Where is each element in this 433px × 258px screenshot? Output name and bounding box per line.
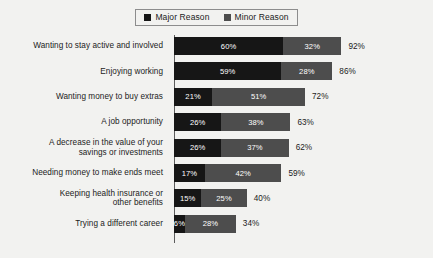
- chart-legend: Major Reason Minor Reason: [0, 9, 433, 26]
- bar-segment-minor-value: 28%: [203, 219, 219, 228]
- bar-segment-minor-value: 25%: [216, 194, 232, 203]
- major-reason-swatch-icon: [144, 14, 151, 21]
- bar-segment-major-value: 6%: [174, 219, 185, 228]
- stacked-bar: 59%28%: [174, 62, 332, 80]
- legend-entry-major-reason: Major Reason: [144, 12, 209, 22]
- bar-segment-major-value: 21%: [185, 92, 201, 101]
- bar-segment-major-value: 59%: [220, 67, 236, 76]
- bar-segment-minor-reason: 25%: [201, 189, 247, 207]
- bar-segment-major-reason: 6%: [174, 215, 185, 233]
- stacked-bar: 21%51%: [174, 88, 305, 106]
- bar-total-label: 40%: [254, 194, 270, 203]
- plot-area: Wanting to stay active and involved60%32…: [0, 33, 433, 247]
- bar-segment-major-reason: 59%: [174, 62, 281, 80]
- bar-row: A decrease in the value of yoursavings o…: [0, 139, 433, 157]
- legend-label-minor-reason: Minor Reason: [235, 12, 289, 22]
- bar-row: Trying a different career6%28%34%: [0, 215, 433, 233]
- bar-total-label: 59%: [288, 169, 304, 178]
- legend-entry-minor-reason: Minor Reason: [224, 12, 289, 22]
- bar-row: Wanting money to buy extras21%51%72%: [0, 88, 433, 106]
- bar-segment-minor-reason: 51%: [212, 88, 305, 106]
- legend-label-major-reason: Major Reason: [155, 12, 209, 22]
- bar-segment-major-reason: 17%: [174, 164, 205, 182]
- bar-segment-minor-value: 38%: [248, 118, 264, 127]
- minor-reason-swatch-icon: [224, 14, 231, 21]
- stacked-bar: 26%37%: [174, 139, 289, 157]
- bar-segment-minor-reason: 32%: [283, 37, 341, 55]
- bar-segment-minor-value: 37%: [247, 143, 263, 152]
- bar-segment-major-value: 15%: [180, 194, 196, 203]
- bar-segment-minor-reason: 37%: [221, 139, 288, 157]
- bar-segment-minor-reason: 28%: [185, 215, 236, 233]
- bar-segment-minor-value: 51%: [251, 92, 267, 101]
- bar-row-label: Wanting to stay active and involved: [0, 41, 170, 50]
- bar-segment-major-value: 26%: [190, 118, 206, 127]
- bar-row: Enjoying working59%28%86%: [0, 62, 433, 80]
- bar-total-label: 63%: [297, 118, 313, 127]
- stacked-bar: 15%25%: [174, 189, 247, 207]
- stacked-bar: 60%32%: [174, 37, 341, 55]
- stacked-bar: 6%28%: [174, 215, 236, 233]
- bar-row-label: Keeping health insurance orother benefit…: [0, 189, 170, 208]
- bar-total-label: 72%: [312, 92, 328, 101]
- bar-segment-major-value: 26%: [190, 143, 206, 152]
- bar-segment-minor-reason: 28%: [281, 62, 332, 80]
- bar-row: A job opportunity26%38%63%: [0, 113, 433, 131]
- bar-segment-minor-value: 42%: [235, 169, 251, 178]
- legend-box: Major Reason Minor Reason: [135, 9, 297, 26]
- bar-total-label: 86%: [339, 67, 355, 76]
- bar-row-label: Needing money to make ends meet: [0, 168, 170, 177]
- bar-segment-major-value: 17%: [182, 169, 198, 178]
- bar-row-label: Trying a different career: [0, 219, 170, 228]
- bar-segment-minor-value: 32%: [305, 42, 321, 51]
- bar-segment-major-value: 60%: [221, 42, 237, 51]
- bar-segment-major-reason: 21%: [174, 88, 212, 106]
- bar-total-label: 92%: [348, 42, 364, 51]
- bar-row: Keeping health insurance orother benefit…: [0, 189, 433, 207]
- bar-row-label: Wanting money to buy extras: [0, 92, 170, 101]
- bar-segment-minor-value: 28%: [299, 67, 315, 76]
- bar-segment-minor-reason: 42%: [205, 164, 281, 182]
- stacked-bar: 17%42%: [174, 164, 281, 182]
- bar-segment-major-reason: 26%: [174, 113, 221, 131]
- bar-row: Wanting to stay active and involved60%32…: [0, 37, 433, 55]
- bar-row: Needing money to make ends meet17%42%59%: [0, 164, 433, 182]
- bar-total-label: 34%: [243, 219, 259, 228]
- bar-segment-major-reason: 26%: [174, 139, 221, 157]
- bar-row-label: A job opportunity: [0, 117, 170, 126]
- bar-total-label: 62%: [296, 143, 312, 152]
- bar-row-label: Enjoying working: [0, 67, 170, 76]
- stacked-bar: 26%38%: [174, 113, 290, 131]
- bar-row-label: A decrease in the value of yoursavings o…: [0, 138, 170, 157]
- bar-segment-major-reason: 15%: [174, 189, 201, 207]
- stacked-bar-chart: Major Reason Minor Reason Wanting to sta…: [0, 0, 433, 258]
- bar-segment-major-reason: 60%: [174, 37, 283, 55]
- bar-segment-minor-reason: 38%: [221, 113, 290, 131]
